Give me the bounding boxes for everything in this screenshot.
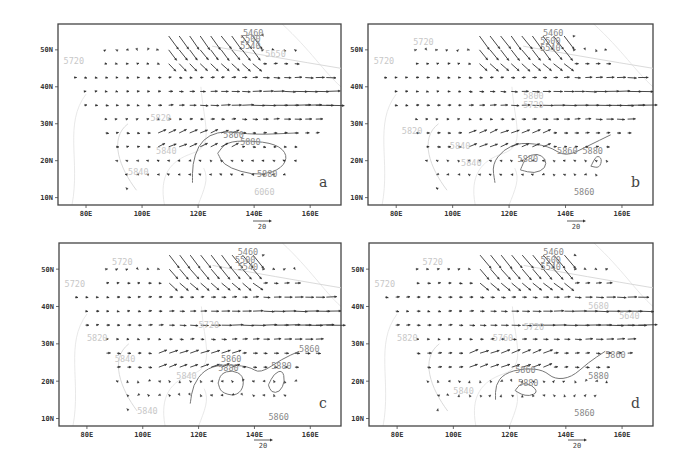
y-tick-label: 20N bbox=[351, 378, 364, 386]
panel-letter: c bbox=[319, 395, 327, 411]
contour-value-label: 5540 bbox=[240, 41, 260, 51]
panel-letter: a bbox=[319, 174, 327, 190]
contour-value-label: 5880 bbox=[518, 154, 538, 164]
x-tick-label: 80E bbox=[391, 431, 404, 439]
panel-letter: b bbox=[631, 174, 640, 190]
contour-value-label: 5640 bbox=[619, 311, 639, 321]
y-tick-label: 10N bbox=[41, 415, 54, 423]
contour-value-label: 5540 bbox=[541, 262, 561, 272]
contour-value-label: 5880 bbox=[271, 361, 291, 371]
y-tick-label: 20N bbox=[40, 157, 53, 165]
y-tick-label: 50N bbox=[40, 46, 53, 54]
coastline-background bbox=[382, 24, 653, 205]
coastline-background bbox=[72, 24, 341, 205]
contour-value-label: 5820 bbox=[397, 333, 417, 343]
y-axis: 10N20N30N40N50N bbox=[350, 46, 368, 202]
y-axis: 10N20N30N40N50N bbox=[40, 46, 58, 202]
y-tick-label: 30N bbox=[40, 120, 53, 128]
wind-vectors bbox=[75, 255, 345, 411]
contour-value-label: 5880 bbox=[240, 137, 260, 147]
contour-value-label: 5840 bbox=[450, 141, 470, 151]
contour-value-label: 5840 bbox=[156, 146, 176, 156]
reference-vector: 20 bbox=[567, 220, 586, 232]
wind-vectors bbox=[74, 34, 344, 190]
reference-vector-label: 20 bbox=[259, 442, 267, 450]
contour-value-label: 5820 bbox=[87, 333, 107, 343]
contour-value-label: 5840 bbox=[461, 158, 481, 168]
x-tick-label: 100E bbox=[134, 431, 151, 439]
panel-letter: d bbox=[631, 395, 640, 411]
x-tick-label: 160E bbox=[614, 210, 631, 218]
x-tick-label: 100E bbox=[444, 210, 461, 218]
y-tick-label: 20N bbox=[350, 157, 363, 165]
contour-value-label: 5720 bbox=[65, 279, 85, 289]
y-tick-label: 50N bbox=[41, 266, 54, 274]
x-tick-label: 140E bbox=[557, 210, 574, 218]
y-tick-label: 50N bbox=[351, 266, 364, 274]
y-tick-label: 40N bbox=[40, 83, 53, 91]
contour-value-label: 5680 bbox=[588, 301, 608, 311]
contour-value-label: 5840 bbox=[453, 386, 473, 396]
x-tick-label: 160E bbox=[302, 431, 319, 439]
contour-value-label: 5880 bbox=[257, 169, 277, 179]
contour-value-label: 5860 bbox=[299, 344, 319, 354]
contour-value-label: 5860 bbox=[574, 187, 594, 197]
reference-vector-label: 20 bbox=[573, 442, 581, 450]
y-tick-label: 30N bbox=[41, 340, 54, 348]
contour-value-label: 5720 bbox=[199, 320, 219, 330]
contour-value-label: 5820 bbox=[150, 113, 170, 123]
y-tick-label: 10N bbox=[351, 415, 364, 423]
contour-value-label: 5720 bbox=[64, 56, 84, 66]
contour-value-label: 5860 bbox=[557, 146, 577, 156]
y-tick-label: 30N bbox=[350, 120, 363, 128]
panel-b-map: 80E100E120E140E160E10N20N30N40N50N546055… bbox=[350, 24, 657, 231]
plot-frame bbox=[368, 24, 653, 205]
contour-value-label: 5540 bbox=[238, 262, 258, 272]
contour-value-label: 6060 bbox=[254, 187, 274, 197]
x-tick-label: 100E bbox=[445, 431, 462, 439]
x-tick-label: 160E bbox=[302, 210, 319, 218]
contour-value-label: 5840 bbox=[115, 354, 135, 364]
x-tick-label: 120E bbox=[190, 431, 207, 439]
x-tick-label: 160E bbox=[614, 431, 631, 439]
y-axis: 10N20N30N40N50N bbox=[41, 266, 59, 423]
y-tick-label: 20N bbox=[41, 378, 54, 386]
contour-labels: 5460550055405720572057205820584058405840… bbox=[65, 247, 320, 421]
y-tick-label: 40N bbox=[350, 83, 363, 91]
contour-value-label: 5720 bbox=[375, 279, 395, 289]
contour-value-label: 5880 bbox=[588, 371, 608, 381]
contour-value-label: 5760 bbox=[493, 333, 513, 343]
x-tick-label: 100E bbox=[134, 210, 151, 218]
reference-vector: 20 bbox=[253, 220, 272, 232]
x-axis: 80E100E120E140E160E bbox=[391, 426, 631, 439]
contour-value-label: 5720 bbox=[422, 257, 442, 267]
contour-value-label: 5840 bbox=[137, 406, 157, 416]
contour-value-label: 5860 bbox=[605, 350, 625, 360]
x-tick-label: 120E bbox=[501, 210, 518, 218]
x-tick-label: 120E bbox=[501, 431, 518, 439]
contour-value-label: 5880 bbox=[582, 146, 602, 156]
contour-value-label: 5540 bbox=[540, 43, 560, 53]
y-tick-label: 40N bbox=[351, 303, 364, 311]
reference-vector-label: 20 bbox=[258, 223, 266, 231]
reference-vector: 20 bbox=[568, 439, 587, 451]
contour-value-label: 5860 bbox=[574, 408, 594, 418]
panel-d-map: 80E100E120E140E160E10N20N30N40N50N546055… bbox=[351, 243, 657, 450]
contour-value-label: 5720 bbox=[112, 257, 132, 267]
x-tick-label: 80E bbox=[80, 210, 93, 218]
coastline-background bbox=[73, 243, 341, 426]
height-contours bbox=[428, 46, 653, 190]
contour-value-label: 5720 bbox=[413, 37, 433, 47]
contour-value-label: 5860 bbox=[268, 412, 288, 422]
x-axis: 80E100E120E140E160E bbox=[80, 205, 319, 218]
wind-vectors bbox=[384, 35, 657, 189]
x-tick-label: 120E bbox=[190, 210, 207, 218]
x-tick-label: 80E bbox=[390, 210, 403, 218]
four-panel-figure: 80E100E120E140E160E10N20N30N40N50N546055… bbox=[0, 0, 685, 474]
height-contours bbox=[118, 265, 341, 411]
y-tick-label: 30N bbox=[351, 340, 364, 348]
y-axis: 10N20N30N40N50N bbox=[351, 266, 369, 423]
x-tick-label: 140E bbox=[246, 431, 263, 439]
y-tick-label: 40N bbox=[41, 303, 54, 311]
contour-value-label: 5720 bbox=[524, 322, 544, 332]
